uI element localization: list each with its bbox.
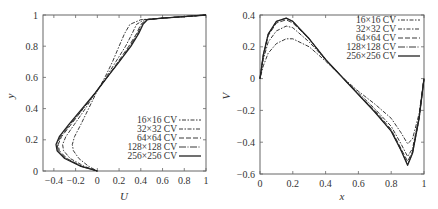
- y-tick-label: 0.8: [26, 41, 39, 52]
- y-tick-label: 0.2: [243, 41, 256, 52]
- right-legend-label-256: 256×256 CV: [347, 51, 397, 61]
- right-y-axis-label: V: [220, 91, 232, 99]
- series-line: [260, 18, 424, 165]
- series-line: [260, 39, 424, 144]
- x-tick-label: 0.4: [135, 175, 148, 186]
- y-tick-label: −0.6: [237, 169, 255, 180]
- y-tick-label: −0.2: [237, 105, 255, 116]
- x-tick-label: 0.2: [113, 175, 126, 186]
- x-tick-label: 0.8: [178, 175, 191, 186]
- x-tick-label: 1: [204, 175, 209, 186]
- y-tick-label: 0.4: [26, 103, 39, 114]
- x-tick-label: 0.6: [352, 178, 365, 189]
- right-legend: 16×16 CV 32×32 CV 64×64 CV 128×128 CV 25…: [347, 15, 420, 61]
- series-line: [260, 18, 424, 164]
- series-line: [260, 26, 424, 156]
- right-x-axis-label: x: [339, 190, 345, 202]
- x-tick-label: 0.2: [287, 178, 300, 189]
- left-x-axis-label: U: [120, 190, 129, 202]
- y-tick-label: 0.4: [243, 10, 256, 21]
- y-tick-label: 0: [33, 166, 38, 177]
- right-legend-swatches: [398, 20, 420, 56]
- left-legend: 16×16 CV 32×32 CV 64×64 CV 128×128 CV 25…: [128, 115, 201, 161]
- left-ticks: −0.4−0.200.20.40.60.8100.20.40.60.81: [26, 10, 209, 187]
- x-tick-label: −0.2: [67, 175, 85, 186]
- y-tick-label: 0.6: [26, 72, 39, 83]
- x-tick-label: 0: [258, 178, 263, 189]
- x-tick-label: −0.4: [45, 175, 63, 186]
- left-plot-frame: [43, 15, 206, 171]
- right-chart: 00.20.40.60.81−0.6−0.4−0.200.20.4 x V 16…: [220, 10, 427, 203]
- right-plot-frame: [260, 15, 424, 174]
- y-tick-label: 0: [250, 73, 255, 84]
- x-tick-label: 1: [422, 178, 427, 189]
- right-ticks: 00.20.40.60.81−0.6−0.4−0.200.20.4: [237, 10, 427, 190]
- x-tick-label: 0: [95, 175, 100, 186]
- x-tick-label: 0.6: [156, 175, 169, 186]
- y-tick-label: 1: [33, 10, 38, 21]
- x-tick-label: 0.8: [385, 178, 398, 189]
- left-y-axis-label: y: [4, 93, 16, 99]
- x-tick-label: 0.4: [319, 178, 332, 189]
- y-tick-label: −0.4: [237, 137, 255, 148]
- left-legend-swatches: [179, 120, 201, 156]
- left-chart: −0.4−0.200.20.40.60.8100.20.40.60.81 U y…: [4, 10, 209, 203]
- y-tick-label: 0.2: [26, 134, 39, 145]
- left-legend-label-256: 256×256 CV: [128, 151, 178, 161]
- right-series-group: [260, 18, 424, 165]
